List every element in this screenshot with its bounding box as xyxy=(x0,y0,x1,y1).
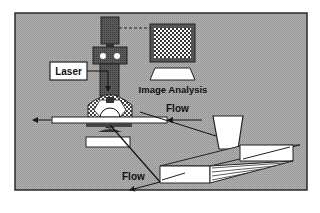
laser-label-box: Laser xyxy=(50,62,87,80)
monitor-base xyxy=(150,68,195,80)
feed-hopper xyxy=(213,116,243,149)
camera xyxy=(101,17,119,47)
flow-label-upper: Flow xyxy=(166,103,189,114)
lens-icon xyxy=(114,53,120,59)
diagram-canvas: Laser Flow Image Analysis xyxy=(0,0,320,213)
optical-column xyxy=(100,64,119,96)
flow-label-lower: Flow xyxy=(122,171,145,182)
monitor-screen xyxy=(154,28,191,58)
laser-label: Laser xyxy=(55,66,82,77)
lens-icon xyxy=(100,53,106,59)
lens-block xyxy=(93,47,127,64)
image-analysis-label: Image Analysis xyxy=(139,84,208,95)
flow-tube xyxy=(52,117,167,123)
